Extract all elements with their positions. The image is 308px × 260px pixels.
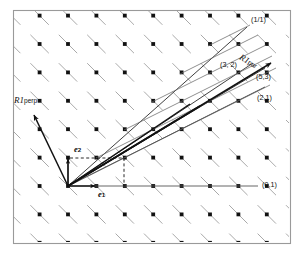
lattice-point [95, 213, 99, 217]
lattice-point [95, 99, 99, 103]
lattice-point [293, 184, 297, 188]
figure-canvas [0, 0, 308, 260]
lattice-point [293, 99, 297, 103]
label-point-0-1: (0,1) [262, 181, 277, 188]
lattice-point [38, 71, 42, 75]
lattice-point [38, 213, 42, 217]
lattice-point [293, 14, 297, 18]
lattice-point [38, 156, 42, 160]
lattice-point [123, 99, 127, 103]
lattice-point [38, 99, 42, 103]
lattice-point [66, 42, 70, 46]
lattice-point [237, 156, 241, 160]
label-e1: e1 [98, 190, 105, 199]
lattice-point [9, 241, 13, 245]
lattice-point [95, 127, 99, 131]
lattice-point [9, 14, 13, 18]
label-r1-perp: R1perp [14, 96, 37, 105]
lattice-point [9, 99, 13, 103]
lattice-point [293, 241, 297, 245]
lattice-point [151, 213, 155, 217]
r1-perp-subscript: perp [24, 97, 37, 104]
lattice-point [151, 156, 155, 160]
lattice-point [66, 213, 70, 217]
lattice-point [265, 156, 269, 160]
lattice-point [208, 213, 212, 217]
lattice-point [180, 14, 184, 18]
lattice-point [180, 213, 184, 217]
label-point-3-2: (3, 2) [220, 61, 237, 68]
lattice-point [66, 71, 70, 75]
label-point-2-1: (2,1) [257, 94, 272, 101]
lattice-point [38, 14, 42, 18]
lattice-point [9, 184, 13, 188]
e1-subscript: 1 [102, 191, 105, 198]
lattice-point [66, 127, 70, 131]
lattice-point [293, 42, 297, 46]
lattice-point [237, 127, 241, 131]
lattice-point [180, 156, 184, 160]
e2-subscript: 2 [78, 146, 81, 153]
lattice-point [208, 127, 212, 131]
lattice-point [9, 127, 13, 131]
lattice-point [123, 71, 127, 75]
lattice-point [9, 213, 13, 217]
label-ratio-1-1: (1/1) [251, 16, 266, 23]
lattice-point [151, 42, 155, 46]
lattice-point [265, 127, 269, 131]
lattice-point [123, 213, 127, 217]
lattice-vector-figure: (1/1) (3, 2) (5,3) (2,1) (0,1) R1par R1p… [0, 0, 308, 260]
lattice-point [151, 71, 155, 75]
lattice-point [38, 184, 42, 188]
lattice-point [151, 14, 155, 18]
lattice-point [66, 14, 70, 18]
lattice-point [293, 127, 297, 131]
lattice-point [66, 99, 70, 103]
lattice-point [38, 42, 42, 46]
lattice-point [95, 71, 99, 75]
lattice-point [237, 14, 241, 18]
lattice-point [293, 156, 297, 160]
lattice-point [265, 213, 269, 217]
lattice-point [123, 14, 127, 18]
lattice-point [123, 42, 127, 46]
lattice-point [180, 42, 184, 46]
lattice-point [208, 156, 212, 160]
lattice-point [208, 14, 212, 18]
label-point-5-3: (5,3) [256, 73, 271, 80]
lattice-point [9, 71, 13, 75]
lattice-point [9, 42, 13, 46]
lattice-point [9, 156, 13, 160]
lattice-point [293, 213, 297, 217]
lattice-point [237, 213, 241, 217]
label-e2: e2 [74, 145, 81, 154]
lattice-point [95, 14, 99, 18]
lattice-point [293, 71, 297, 75]
r1-perp-name: R1 [14, 95, 24, 105]
lattice-point [95, 42, 99, 46]
